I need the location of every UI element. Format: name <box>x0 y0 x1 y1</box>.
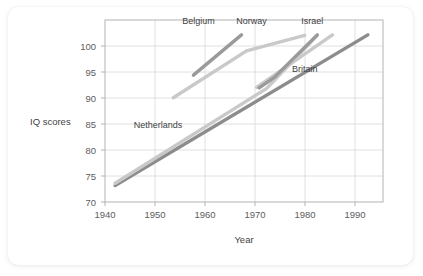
series-label-belgium: Belgium <box>182 16 215 26</box>
x-tick-label-1940: 1940 <box>94 209 115 220</box>
series-label-norway: Norway <box>236 16 267 26</box>
x-tick-label-1950: 1950 <box>144 209 165 220</box>
series-line-norway-steep <box>259 35 317 88</box>
x-tick-label-1990: 1990 <box>344 209 365 220</box>
plot-frame <box>105 20 383 202</box>
series-label-britain: Britain <box>292 64 318 74</box>
chart-canvas: 100 95 90 85 80 75 70 1940 1950 1960 197… <box>0 0 423 276</box>
y-tick-label-70: 70 <box>85 197 96 208</box>
x-tick-marks <box>105 202 355 206</box>
y-tick-label-90: 90 <box>85 93 96 104</box>
y-tick-label-95: 95 <box>85 67 96 78</box>
series-label-israel: Israel <box>301 16 323 26</box>
y-tick-label-80: 80 <box>85 145 96 156</box>
x-axis-title: Year <box>234 234 253 245</box>
x-tick-label-1960: 1960 <box>194 209 215 220</box>
series-line-britain <box>115 35 368 186</box>
iq-scores-line-chart: 100 95 90 85 80 75 70 1940 1950 1960 197… <box>0 0 423 276</box>
y-tick-label-100: 100 <box>80 41 96 52</box>
gridlines-horizontal <box>105 46 383 176</box>
x-tick-label-1980: 1980 <box>294 209 315 220</box>
x-tick-label-1970: 1970 <box>244 209 265 220</box>
y-tick-label-75: 75 <box>85 171 96 182</box>
y-axis-title: IQ scores <box>30 116 71 127</box>
y-tick-label-85: 85 <box>85 119 96 130</box>
series-lines-layer <box>115 35 368 186</box>
series-label-netherlands: Netherlands <box>134 120 183 130</box>
y-tick-marks <box>101 46 105 202</box>
